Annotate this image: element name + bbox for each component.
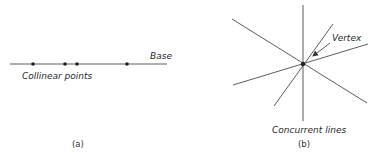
vertex-arrow-icon — [313, 43, 330, 56]
caption-a: (a) — [72, 139, 84, 149]
concurrent-lines-group — [232, 5, 368, 121]
collinear-point — [31, 62, 35, 66]
concurrent-lines-label: Concurrent lines — [272, 125, 346, 135]
panel-a-collinear-points: Base Collinear points (a) — [10, 51, 172, 149]
caption-b: (b) — [298, 139, 310, 149]
vertex-label: Vertex — [332, 33, 362, 43]
collinear-points-label: Collinear points — [22, 71, 93, 81]
concurrent-line — [232, 19, 367, 103]
concurrent-line — [233, 44, 368, 85]
vertex-point — [301, 62, 305, 66]
collinear-point — [75, 62, 79, 66]
collinear-point — [63, 62, 67, 66]
base-label: Base — [150, 51, 172, 61]
collinear-point — [125, 62, 129, 66]
panel-b-concurrent-lines: Vertex Concurrent lines (b) — [232, 5, 368, 149]
diagram-canvas: Base Collinear points (a) Vertex Concurr… — [0, 0, 374, 158]
